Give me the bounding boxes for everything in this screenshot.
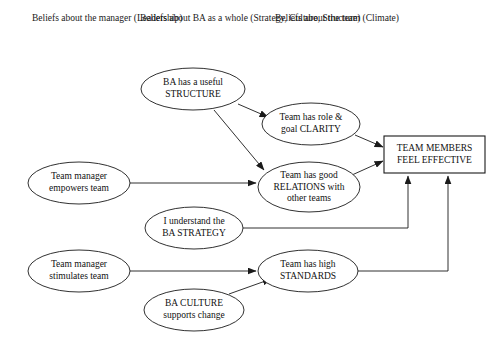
diagram-graphics <box>0 0 500 351</box>
node-shape-ba-structure[interactable] <box>141 68 245 110</box>
edge-relations-to-effective <box>352 161 383 175</box>
edge-structure-to-clarity <box>238 104 268 117</box>
node-shape-team-clarity[interactable] <box>262 103 360 145</box>
node-shape-team-standards[interactable] <box>258 250 358 292</box>
edge-structure-to-relations <box>214 110 264 170</box>
node-shape-ba-culture[interactable] <box>144 289 244 331</box>
node-shape-manager-empowers[interactable] <box>28 162 130 204</box>
edge-standards-to-effective <box>357 176 448 271</box>
diagram-canvas: Beliefs about the manager (Leadership) B… <box>0 0 500 351</box>
node-shape-manager-stimulates[interactable] <box>28 250 130 292</box>
edge-clarity-to-effective <box>355 135 383 147</box>
node-shape-ba-strategy[interactable] <box>145 207 243 249</box>
node-shape-team-effective[interactable] <box>384 136 485 173</box>
node-shape-team-relations[interactable] <box>258 162 360 212</box>
